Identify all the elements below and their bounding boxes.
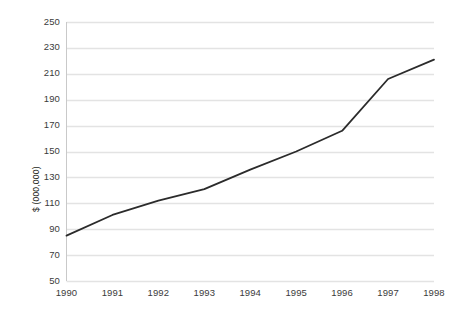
- gridlines: [67, 23, 435, 282]
- data-series-line: [67, 60, 435, 236]
